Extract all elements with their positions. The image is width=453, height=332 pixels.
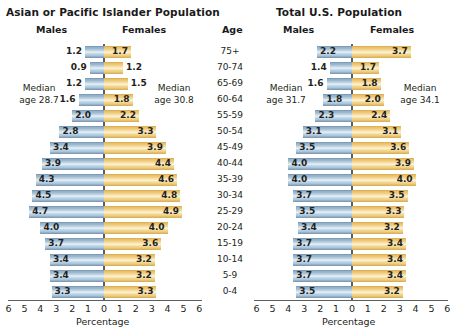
value-label-male: 3.4 [53,253,69,266]
value-label-male: 2.8 [62,125,78,138]
axis-tick: 5 [18,303,32,314]
axis-tick: 3 [393,303,407,314]
axis-tick: 5 [425,303,439,314]
value-label-male: 0.9 [65,61,87,74]
pyramid-row: 1.41.7 [247,60,453,76]
bar-female [104,62,123,74]
value-label-male: 4.0 [291,157,307,170]
females-header-right: Females [370,24,414,35]
pyramid-row: 3.73.6 [0,236,210,252]
value-label-female: 4.6 [152,173,174,186]
value-label-female: 3.6 [136,237,158,250]
median-age-males-left: Median age 28.7 [8,83,70,106]
females-header-left: Females [122,24,166,35]
value-label-female: 3.2 [378,285,400,298]
axis-tick: 4 [281,303,295,314]
median-label-line1: Median [255,83,317,95]
pyramid-row: 4.03.9 [247,156,453,172]
axis-tick: 4 [33,303,47,314]
value-label-male: 3.4 [53,269,69,282]
axis-tick: 6 [440,303,453,314]
value-label-male: 3.5 [299,285,315,298]
value-label-male: 4.0 [291,173,307,186]
value-label-female: 3.3 [131,125,153,138]
axis-tick: 6 [192,303,206,314]
pyramid-row: 3.73.4 [247,252,453,268]
value-label-female: 1.8 [108,93,130,106]
value-label-male: 3.4 [53,141,69,154]
pyramid-row: 3.13.1 [247,124,453,140]
pyramid-row: 3.43.2 [0,268,210,284]
value-label-male: 4.3 [39,173,55,186]
value-label-male: 3.4 [301,221,317,234]
axis-tick: 0 [97,303,111,314]
bar-male [79,94,104,106]
value-label-female: 3.3 [379,205,401,218]
median-age-females-right: Median age 34.1 [389,83,451,106]
bar-female [104,78,128,90]
males-header-right: Males [283,24,314,35]
pyramid-row: 4.54.8 [0,188,210,204]
population-pyramid-figure: Asian or Pacific Islander Population Mal… [0,0,453,332]
pyramid-row: 2.23.7 [247,44,453,60]
value-label-male: 3.7 [296,189,312,202]
value-label-male: 2.0 [75,109,91,122]
median-label-line2: age 31.7 [255,95,317,107]
value-label-female: 3.4 [381,253,403,266]
value-label-female: 3.2 [378,221,400,234]
axis-tick: 2 [129,303,143,314]
value-label-male: 3.7 [296,237,312,250]
value-label-female: 3.2 [130,269,152,282]
value-label-female: 3.9 [389,157,411,170]
pyramid-row: 4.74.9 [0,204,210,220]
value-label-female: 3.7 [386,45,408,58]
axis-tick: 3 [145,303,159,314]
pyramid-row: 3.43.2 [247,220,453,236]
median-label-line1: Median [8,83,70,95]
value-label-female: 1.2 [126,61,142,74]
value-label-male: 4.7 [32,205,48,218]
bar-male [85,78,104,90]
axis-tick: 3 [297,303,311,314]
pyramid-row: 0.91.2 [0,60,210,76]
value-label-male: 3.7 [296,269,312,282]
panel-title-asian-pacific-islander: Asian or Pacific Islander Population [6,6,220,18]
bar-male [330,62,352,74]
median-label-line1: Median [389,83,451,95]
value-label-female: 4.0 [143,221,165,234]
axis-tick: 1 [113,303,127,314]
value-label-female: 4.0 [391,173,413,186]
axis-title-left: Percentage [76,316,129,327]
pyramid-row: 3.33.3 [0,284,210,300]
axis-tick: 2 [65,303,79,314]
value-label-male: 3.1 [306,125,322,138]
value-label-female: 2.4 [365,109,387,122]
value-label-female: 1.7 [354,61,376,74]
axis-line-left [8,300,202,301]
panel-title-total-us: Total U.S. Population [276,6,402,18]
pyramid-row: 3.53.2 [247,284,453,300]
value-label-male: 2.2 [320,45,336,58]
axis-tick: 6 [2,303,16,314]
pyramid-row: 3.53.6 [247,140,453,156]
axis-tick: 3 [49,303,63,314]
pyramid-row: 4.04.0 [0,220,210,236]
pyramid-row: 3.53.3 [247,204,453,220]
bar-male [85,46,104,58]
axis-tick: 1 [81,303,95,314]
axis-tick: 4 [409,303,423,314]
pyramid-row: 2.83.3 [0,124,210,140]
median-age-males-right: Median age 31.7 [255,83,317,106]
axis-tick: 5 [266,303,280,314]
males-header-left: Males [36,24,67,35]
value-label-female: 3.9 [141,141,163,154]
median-age-females-left: Median age 30.8 [143,83,205,106]
pyramid-row: 3.73.5 [247,188,453,204]
value-label-male: 4.0 [43,221,59,234]
value-label-female: 2.0 [359,93,381,106]
value-label-female: 4.8 [155,189,177,202]
axis-tick: 5 [177,303,191,314]
value-label-female: 3.4 [381,237,403,250]
value-label-female: 1.8 [356,77,378,90]
value-label-female: 4.9 [157,205,179,218]
